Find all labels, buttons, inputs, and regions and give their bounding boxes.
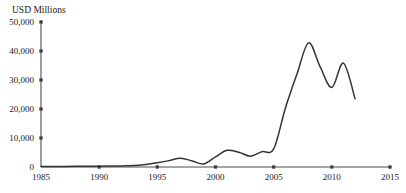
x-tick-label: 2005 — [265, 172, 284, 182]
y-tick-label: 30,000 — [9, 75, 34, 85]
y-tick-label: 50,000 — [9, 17, 34, 27]
y-tick-label: 40,000 — [9, 46, 34, 56]
chart-figure: USD Millions 010,00020,00030,00040,00050… — [0, 0, 406, 193]
x-tick-label: 1990 — [90, 172, 109, 182]
data-series-line — [41, 43, 355, 167]
x-axis-tick-labels: 1985199019952000200520102015 — [32, 172, 400, 182]
x-tick-label: 2015 — [381, 172, 400, 182]
y-tick-label: 10,000 — [9, 133, 34, 143]
chart-canvas: USD Millions 010,00020,00030,00040,00050… — [0, 0, 406, 193]
x-tick-label: 2010 — [323, 172, 342, 182]
x-tick-label: 2000 — [207, 172, 226, 182]
y-axis-tick-labels: 010,00020,00030,00040,00050,000 — [9, 17, 34, 172]
x-tick-label: 1985 — [32, 172, 51, 182]
y-axis-title: USD Millions — [12, 5, 66, 15]
x-tick-label: 1995 — [148, 172, 167, 182]
y-tick-label: 0 — [30, 162, 35, 172]
y-tick-label: 20,000 — [9, 104, 34, 114]
